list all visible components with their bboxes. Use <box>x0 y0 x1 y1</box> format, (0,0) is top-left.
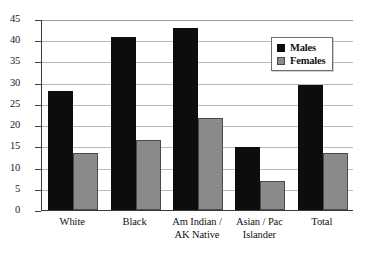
bar-group <box>167 20 229 210</box>
x-axis-label-line2: Islander <box>220 229 298 242</box>
bar-males <box>173 28 198 211</box>
legend-item: Females <box>277 54 325 67</box>
bar-group <box>104 20 166 210</box>
y-axis-tick-label: 10 <box>0 162 20 173</box>
y-axis-tick-label: 35 <box>0 55 20 66</box>
y-axis-tick-label: 5 <box>0 183 20 194</box>
bar-females <box>198 118 223 210</box>
bar-chart: 051015202530354045 MalesFemales WhiteBla… <box>0 0 367 255</box>
bar-females <box>323 153 348 210</box>
bar-males <box>48 91 73 210</box>
x-axis-label-line1: Asian / Pac <box>236 216 283 227</box>
bar-males <box>298 85 323 210</box>
bar-females <box>136 140 161 210</box>
chart-legend: MalesFemales <box>271 37 333 71</box>
legend-label: Females <box>290 55 325 66</box>
x-axis-category-label: Total <box>283 216 361 229</box>
x-axis-label-line1: White <box>60 216 85 227</box>
legend-item: Males <box>277 41 325 54</box>
y-axis-tick-label: 30 <box>0 77 20 88</box>
bar-females <box>260 181 285 210</box>
bar-group <box>42 20 104 210</box>
x-axis-label-line1: Am Indian / <box>172 216 222 227</box>
y-axis-tick-label: 45 <box>0 13 20 24</box>
y-axis-tick-label: 20 <box>0 119 20 130</box>
bar-females <box>73 153 98 210</box>
bar-males <box>235 147 260 210</box>
legend-swatch-females <box>277 57 285 65</box>
x-axis-label-line1: Total <box>311 216 332 227</box>
y-axis-tick-label: 0 <box>0 204 20 215</box>
plot-area: MalesFemales <box>41 20 353 211</box>
x-axis-label-line1: Black <box>123 216 147 227</box>
y-axis-tick-mark <box>35 211 41 212</box>
y-axis-tick-label: 15 <box>0 140 20 151</box>
legend-swatch-males <box>277 44 285 52</box>
bar-males <box>111 37 136 210</box>
legend-label: Males <box>290 42 316 53</box>
y-axis-tick-label: 40 <box>0 34 20 45</box>
y-axis-tick-label: 25 <box>0 98 20 109</box>
